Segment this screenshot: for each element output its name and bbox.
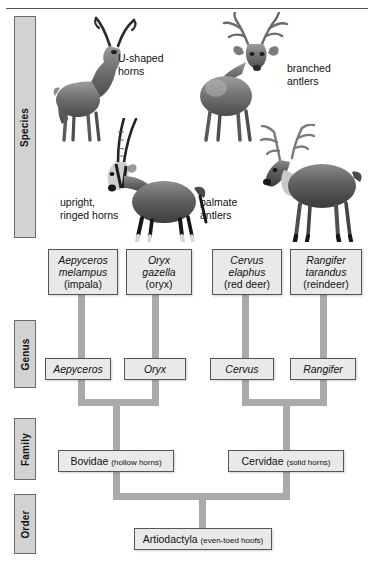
family-name: Bovidae [70, 455, 108, 467]
species-genus-name: Oryx [148, 254, 170, 266]
family-box-bovidae: Bovidae (hollow horns) [58, 450, 174, 472]
rank-label-order: Order [14, 494, 36, 554]
species-box-impala: Aepyceros melampus (impala) [48, 249, 118, 295]
annotation-palmate-antlers: palmate antlers [200, 196, 237, 221]
species-epithet: tarandus [306, 266, 347, 278]
family-box-cervidae: Cervidae (solid horns) [228, 450, 344, 472]
taxonomy-diagram: U-shaped horns branched antlers upright,… [0, 0, 375, 562]
annotation-upright-ringed-horns: upright, ringed horns [60, 196, 118, 221]
species-common-name: (reindeer) [303, 278, 349, 290]
family-note: (hollow horns) [111, 458, 161, 467]
illustration-oryx [88, 118, 214, 242]
family-note: (solid horns) [287, 458, 331, 467]
genus-box-rangifer: Rangifer [290, 358, 356, 380]
connector-species-to-genus-2 [242, 295, 249, 358]
rank-label-order-text: Order [20, 510, 31, 538]
order-box-artiodactyla: Artiodactyla (even-toed hoofs) [134, 528, 272, 550]
species-genus-name: Aepyceros [58, 254, 108, 266]
species-epithet: elaphus [229, 266, 266, 278]
connector-cervidae-stem [283, 399, 290, 450]
top-divider-rule [6, 8, 368, 9]
rank-label-species-text: Species [20, 107, 31, 146]
rank-label-genus: Genus [14, 320, 36, 388]
illustration-reindeer [244, 124, 368, 242]
species-genus-name: Cervus [230, 254, 263, 266]
connector-bovidae-stem [113, 399, 120, 450]
connector-species-to-genus-1 [152, 295, 159, 358]
order-name: Artiodactyla [143, 533, 198, 545]
genus-name: Aepyceros [53, 363, 103, 375]
order-note: (even-toed hoofs) [201, 536, 264, 545]
genus-box-cervus: Cervus [210, 358, 274, 380]
connector-order-stem [199, 493, 206, 528]
rank-label-genus-text: Genus [20, 338, 31, 370]
rank-label-species: Species [14, 16, 36, 238]
species-common-name: (impala) [64, 278, 102, 290]
species-common-name: (red deer) [224, 278, 270, 290]
genus-box-aepyceros: Aepyceros [45, 358, 111, 380]
rank-label-family: Family [14, 418, 36, 480]
genus-name: Cervus [225, 363, 258, 375]
species-epithet: melampus [59, 266, 107, 278]
annotation-branched-antlers: branched antlers [287, 62, 331, 87]
species-box-reindeer: Rangifer tarandus (reindeer) [290, 249, 362, 295]
genus-name: Rangifer [303, 363, 343, 375]
connector-species-to-genus-0 [78, 295, 85, 358]
genus-name: Oryx [144, 363, 166, 375]
species-genus-name: Rangifer [306, 254, 346, 266]
family-name: Cervidae [241, 455, 283, 467]
species-epithet: gazella [142, 266, 175, 278]
genus-box-oryx: Oryx [124, 358, 186, 380]
species-box-oryx: Oryx gazella (oryx) [126, 249, 192, 295]
annotation-u-shaped-horns: U-shaped horns [118, 52, 164, 77]
species-common-name: (oryx) [146, 278, 173, 290]
connector-species-to-genus-3 [320, 295, 327, 358]
rank-label-family-text: Family [20, 433, 31, 466]
species-box-red-deer: Cervus elaphus (red deer) [212, 249, 282, 295]
